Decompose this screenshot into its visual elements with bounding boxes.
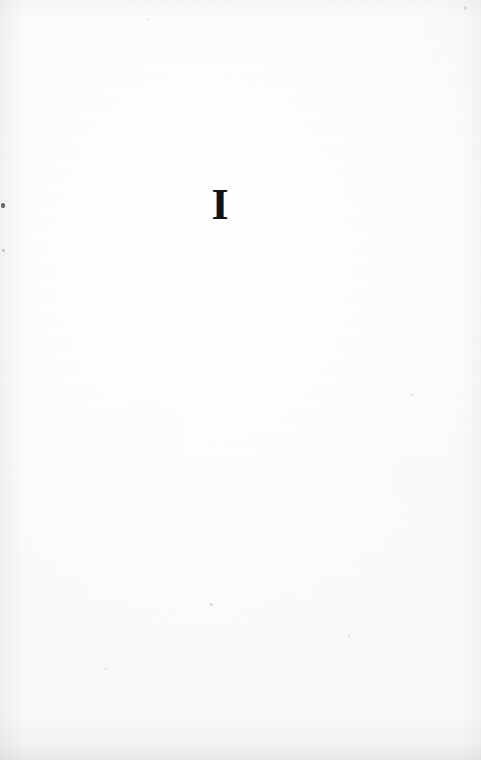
- upper-mid-speck: [147, 18, 149, 20]
- paper-grain-texture: [0, 0, 481, 760]
- lower-mid-speck: [210, 603, 213, 606]
- lower-left-speck: [105, 668, 107, 670]
- lower-right-speck: [348, 634, 350, 637]
- part-number-numeral: I: [0, 188, 441, 222]
- left-edge-faint-speck: [2, 249, 5, 252]
- paper-mottle-layer: [0, 0, 481, 760]
- top-right-speck: [464, 6, 467, 10]
- mid-right-speck: [410, 394, 413, 396]
- scanned-page: I: [0, 0, 481, 760]
- scan-edge-vignette: [0, 0, 481, 760]
